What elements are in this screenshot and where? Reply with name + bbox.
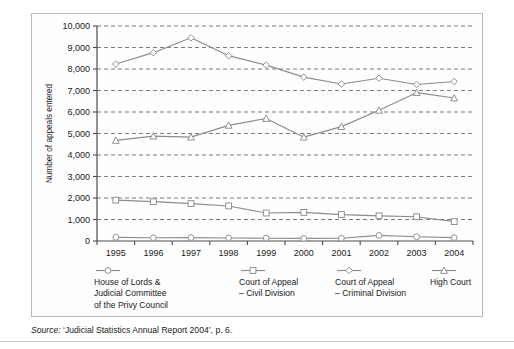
line-chart: 01,0002,0003,0004,0005,0006,0007,0008,00… [32,14,484,264]
data-point-marker [376,107,383,113]
data-series [113,197,457,224]
data-point-marker [263,115,270,121]
x-axis-tick-label: 2004 [444,248,464,258]
data-point-marker [376,233,382,239]
data-point-marker [113,197,119,203]
data-series-group [112,35,457,242]
data-point-marker [301,210,307,216]
x-axis-tick-label: 1999 [256,248,276,258]
y-axis-tick-label: 3,000 [67,172,90,182]
y-axis-tick-label: 5,000 [67,129,90,139]
x-axis-tick-label: 1996 [143,248,163,258]
data-point-marker [263,62,270,69]
legend-item[interactable]: Court of Appeal – Civil Division [239,266,298,300]
y-axis-tick-label: 0 [85,236,90,246]
data-point-marker [451,219,457,225]
y-axis-tick-label: 7,000 [67,86,90,96]
y-axis-tick-label: 9,000 [67,43,90,53]
source-note: Source: ‘Judicial Statistics Annual Repo… [31,325,232,335]
y-axis: 01,0002,0003,0004,0005,0006,0007,0008,00… [62,21,97,246]
y-axis-tick-label: 10,000 [62,21,90,31]
data-point-marker [263,210,269,216]
source-label: Source: [31,325,61,335]
data-point-marker [226,235,232,241]
chart-plot-area: 01,0002,0003,0004,0005,0006,0007,0008,00… [32,14,484,264]
y-axis-tick-label: 2,000 [67,193,90,203]
data-point-marker [226,203,232,209]
data-point-marker [225,52,232,59]
data-point-marker [376,75,383,82]
legend-item-label: High Court [430,277,471,288]
figure-panel: 01,0002,0003,0004,0005,0006,0007,0008,00… [31,13,483,317]
data-point-marker [338,123,345,129]
data-point-marker [150,49,157,56]
data-point-marker [451,235,457,241]
data-point-marker [151,199,157,205]
x-axis-tick-label: 2001 [331,248,351,258]
legend-item-label: House of Lords & Judicial Committee of t… [94,277,168,311]
bottom-divider [0,341,514,342]
x-axis-tick-label: 1995 [106,248,126,258]
legend-item-label: Court of Appeal – Criminal Division [335,277,406,300]
data-series [112,89,457,143]
data-point-marker [263,235,269,241]
y-axis-tick-label: 4,000 [67,150,90,160]
data-point-marker [339,235,345,241]
y-axis-tick-label: 1,000 [67,215,90,225]
y-axis-title: Number of appeals entered [45,83,54,183]
data-point-marker [339,212,345,218]
data-point-marker [413,81,420,88]
y-axis-tick-label: 8,000 [67,64,90,74]
legend-item[interactable]: House of Lords & Judicial Committee of t… [94,266,168,311]
legend-circle-icon [95,266,121,275]
data-point-marker [113,61,120,68]
x-axis-tick-label: 2000 [294,248,314,258]
data-point-marker [188,201,194,207]
x-axis-tick-label: 2003 [407,248,427,258]
legend-item[interactable]: High Court [430,266,471,288]
x-axis-tick-label: 2002 [369,248,389,258]
x-axis: 1995199619971998199920002001200220032004 [97,241,473,258]
data-point-marker [338,81,345,88]
legend-item-label: Court of Appeal – Civil Division [239,277,298,300]
x-axis-tick-label: 1998 [219,248,239,258]
data-series [113,233,457,242]
x-axis-tick-label: 1997 [181,248,201,258]
data-point-marker [376,213,382,219]
data-point-marker [301,74,308,81]
data-point-marker [151,235,157,241]
legend-diamond-icon [336,266,362,275]
legend-item[interactable]: Court of Appeal – Criminal Division [335,266,406,300]
data-point-marker [113,234,119,240]
data-point-marker [188,235,194,241]
source-citation: ‘Judicial Statistics Annual Report 2004’… [61,325,233,335]
legend-square-icon [240,266,266,275]
chart-legend: House of Lords & Judicial Committee of t… [32,266,484,314]
legend-triangle-icon [431,266,457,275]
data-point-marker [414,234,420,240]
data-series [113,35,458,88]
data-point-marker [301,236,307,242]
data-point-marker [188,35,195,42]
data-point-marker [414,214,420,220]
y-axis-tick-label: 6,000 [67,107,90,117]
data-point-marker [451,78,458,85]
